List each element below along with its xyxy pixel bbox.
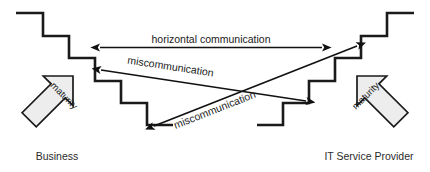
maturity-arrow-left-group bbox=[14, 61, 88, 135]
maturity-arrow-left bbox=[14, 61, 88, 135]
horizontal-communication-label: horizontal communication bbox=[151, 33, 270, 45]
miscommunication-lower-label: miscommunication bbox=[172, 88, 257, 131]
maturity-arrow-right-group bbox=[342, 61, 416, 135]
entity-label-it-service-provider: IT Service Provider bbox=[324, 150, 414, 162]
entity-label-business: Business bbox=[36, 150, 79, 162]
diagram-canvas: maturity maturity horizontal communicati… bbox=[0, 0, 430, 172]
staircase-communication-diagram: maturity maturity horizontal communicati… bbox=[0, 0, 430, 172]
miscommunication-upper-label: miscommunication bbox=[127, 54, 215, 79]
maturity-arrow-right bbox=[342, 61, 416, 135]
